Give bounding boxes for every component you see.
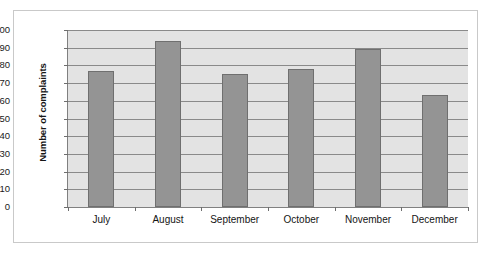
bar: [88, 71, 114, 207]
gridline: [68, 172, 468, 173]
x-axis-tick: [201, 207, 202, 211]
gridline: [68, 65, 468, 66]
y-axis-tick: [64, 101, 68, 102]
y-axis-tick-label: 30: [0, 149, 10, 159]
y-axis-tick: [64, 136, 68, 137]
bar: [422, 95, 448, 207]
chart-container: Number of complaints 1009080706050403020…: [13, 10, 478, 243]
y-axis-tick-label: 70: [0, 78, 10, 88]
gridline: [68, 189, 468, 190]
y-axis-title: Number of complaints: [37, 38, 48, 188]
gridline: [68, 136, 468, 137]
x-axis-tick: [468, 207, 469, 211]
x-axis-tick-label: July: [68, 214, 135, 225]
y-axis-tick-label: 90: [0, 43, 10, 53]
gridline: [68, 30, 468, 31]
y-axis-tick-label: 10: [0, 184, 10, 194]
gridline: [68, 154, 468, 155]
y-axis-tick: [64, 119, 68, 120]
bar: [155, 41, 181, 207]
bar: [288, 69, 314, 207]
y-axis-tick: [64, 83, 68, 84]
y-axis-tick: [64, 48, 68, 49]
x-axis-tick: [68, 207, 69, 211]
y-axis-tick: [64, 189, 68, 190]
gridline: [68, 101, 468, 102]
gridline: [68, 83, 468, 84]
y-axis-tick: [64, 65, 68, 66]
y-axis-tick-label: 20: [0, 167, 10, 177]
y-axis-tick-label: 40: [0, 131, 10, 141]
y-axis-tick: [64, 172, 68, 173]
x-axis-tick-label: October: [268, 214, 335, 225]
x-axis-tick: [401, 207, 402, 211]
x-axis-tick-label: November: [335, 214, 402, 225]
y-axis-tick-label: 100: [0, 25, 10, 35]
y-axis-tick-label: 80: [0, 60, 10, 70]
x-axis-tick: [268, 207, 269, 211]
gridline: [68, 48, 468, 49]
y-axis-tick: [64, 30, 68, 31]
y-axis-tick-label: 60: [0, 96, 10, 106]
gridline: [68, 119, 468, 120]
x-axis-tick-label: August: [135, 214, 202, 225]
x-axis-tick-label: September: [201, 214, 268, 225]
x-axis-tick: [335, 207, 336, 211]
x-axis-tick: [135, 207, 136, 211]
x-axis-tick-label: December: [401, 214, 468, 225]
y-axis-tick-label: 50: [0, 114, 10, 124]
bar: [355, 49, 381, 207]
y-axis-tick: [64, 154, 68, 155]
plot-area: 1009080706050403020100JulyAugustSeptembe…: [67, 30, 468, 208]
bar: [222, 74, 248, 207]
y-axis-tick-label: 0: [0, 202, 10, 212]
